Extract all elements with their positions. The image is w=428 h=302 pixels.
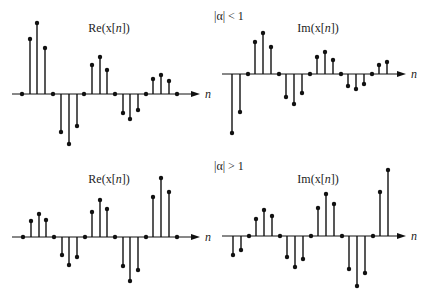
stem-marker (378, 190, 382, 194)
stem-plot-1: nIm(x[n]) (222, 21, 417, 135)
plot-title: Re(x[n]) (88, 21, 129, 35)
stem-marker (67, 263, 71, 267)
stem-marker (377, 63, 381, 67)
stem-marker (269, 45, 273, 49)
stem-marker (90, 63, 94, 67)
stem-marker (75, 124, 79, 128)
x-axis-label: n (411, 67, 417, 81)
plot-title: Im(x[n]) (297, 172, 338, 186)
stem-marker (262, 208, 266, 212)
axis-arrow-icon (191, 91, 200, 97)
stem-marker (315, 55, 319, 59)
stem-marker (323, 50, 327, 54)
stem-marker (284, 95, 288, 99)
stem-marker (113, 92, 117, 96)
stem-marker (20, 92, 24, 96)
axis-arrow-icon (397, 71, 406, 77)
plot-title: Re(x[n]) (88, 172, 129, 186)
stem-marker (246, 72, 250, 76)
stem-marker (293, 265, 297, 269)
stem-plot-2: nRe(x[n]) (12, 172, 211, 283)
stem-marker (151, 77, 155, 81)
stem-marker (144, 235, 148, 239)
stem-marker (346, 84, 350, 88)
stem-marker (105, 207, 109, 211)
stem-marker (44, 218, 48, 222)
stem-marker (247, 234, 251, 238)
stem-marker (159, 73, 163, 77)
stem-marker (52, 235, 56, 239)
stem-marker (175, 92, 179, 96)
stem-marker (301, 257, 305, 261)
stem-marker (230, 131, 234, 135)
stem-marker (51, 92, 55, 96)
stem-marker (159, 176, 163, 180)
x-axis-label: n (411, 229, 417, 243)
plot-title: Im(x[n]) (297, 21, 338, 35)
stem-marker (385, 60, 389, 64)
stem-marker (35, 21, 39, 25)
stem-marker (340, 234, 344, 238)
stem-marker (43, 46, 47, 50)
stem-marker (277, 72, 281, 76)
stem-marker (363, 271, 367, 275)
stem-marker (253, 40, 257, 44)
stem-marker (136, 268, 140, 272)
stem-marker (67, 142, 71, 146)
stem-marker (105, 68, 109, 72)
condition-label: |α| < 1 (214, 9, 244, 23)
stem-marker (278, 234, 282, 238)
stem-marker (309, 234, 313, 238)
stem-marker (355, 284, 359, 288)
stem-marker (292, 102, 296, 106)
stem-marker (175, 235, 179, 239)
stem-plot-0: nRe(x[n]) (12, 21, 211, 146)
stem-marker (144, 92, 148, 96)
stem-marker (60, 253, 64, 257)
stem-marker (332, 202, 336, 206)
stem-marker (308, 72, 312, 76)
stem-marker (128, 279, 132, 283)
stem-marker (98, 198, 102, 202)
stem-marker (254, 217, 258, 221)
stem-marker (90, 210, 94, 214)
stem-marker (121, 264, 125, 268)
x-axis-label: n (205, 87, 211, 101)
stem-marker (98, 55, 102, 59)
stem-marker (354, 87, 358, 91)
stem-marker (331, 58, 335, 62)
stem-marker (128, 117, 132, 121)
condition-label: |α| > 1 (214, 159, 244, 173)
stem-marker (151, 195, 155, 199)
stem-marker (75, 255, 79, 259)
stem-marker (167, 79, 171, 83)
stem-marker (300, 91, 304, 95)
stem-plot-3: nIm(x[n]) (222, 168, 417, 288)
stem-marker (136, 108, 140, 112)
stem-marker (285, 255, 289, 259)
stem-marker (371, 234, 375, 238)
stem-marker (339, 72, 343, 76)
stem-marker (347, 267, 351, 271)
stem-marker (29, 219, 33, 223)
stem-marker (121, 111, 125, 115)
stem-marker (239, 248, 243, 252)
stem-marker (238, 110, 242, 114)
stem-marker (370, 72, 374, 76)
axis-arrow-icon (191, 234, 200, 240)
stem-marker (28, 37, 32, 41)
stem-marker (21, 235, 25, 239)
stem-plot-figure: nRe(x[n])nIm(x[n])nRe(x[n])nIm(x[n])|α| … (0, 0, 428, 302)
stem-marker (37, 212, 41, 216)
stem-marker (82, 92, 86, 96)
axis-arrow-icon (397, 233, 406, 239)
stem-marker (270, 214, 274, 218)
stem-marker (167, 190, 171, 194)
stem-marker (316, 206, 320, 210)
stem-marker (261, 31, 265, 35)
stem-marker (231, 253, 235, 257)
stem-marker (386, 168, 390, 172)
x-axis-label: n (205, 230, 211, 244)
stem-marker (59, 130, 63, 134)
stem-marker (362, 82, 366, 86)
